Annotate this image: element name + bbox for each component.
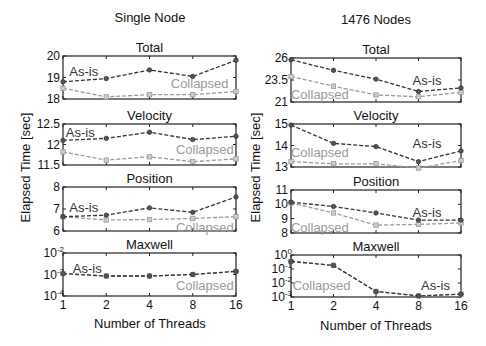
collapsed-marker — [191, 93, 195, 97]
as-is-marker — [104, 136, 108, 140]
y-tick-label: 20 — [47, 49, 61, 63]
as-is-marker — [416, 89, 420, 93]
collapsed-marker — [374, 162, 378, 166]
panel-single-node-position: Position678As-isCollapsed — [53, 171, 238, 238]
series-label-collapsed: Collapsed — [176, 278, 234, 293]
collapsed-marker — [104, 218, 108, 222]
y-tick-label: 21 — [275, 95, 289, 109]
collapsed-marker — [104, 158, 108, 162]
as-is-marker — [234, 58, 238, 62]
x-tick-label: 8 — [189, 298, 196, 312]
panel-1476-nodes-position: Position891011As-isCollapsed — [275, 174, 464, 240]
series-label-as-is: As-is — [73, 261, 102, 276]
as-is-marker — [147, 68, 151, 72]
as-is-marker — [289, 58, 293, 62]
x-tick-label: 2 — [103, 298, 110, 312]
series-label-as-is: As-is — [413, 73, 442, 88]
y-tick-label: 10-2 — [44, 245, 65, 260]
y-tick-label: 12 — [47, 138, 61, 152]
x-tick-label: 2 — [330, 299, 337, 313]
panel-title: Maxwell — [126, 237, 173, 252]
panel-title: Total — [136, 40, 164, 55]
x-tick-label: 16 — [229, 298, 243, 312]
as-is-marker — [374, 211, 378, 215]
y-tick-label: 9 — [281, 212, 288, 226]
collapsed-marker — [234, 215, 238, 219]
as-is-marker — [147, 206, 151, 210]
collapsed-marker — [147, 93, 151, 97]
collapsed-marker — [374, 93, 378, 97]
y-tick-label: 14 — [275, 139, 289, 153]
collapsed-marker — [459, 158, 463, 162]
collapsed-marker — [416, 166, 420, 170]
series-label-collapsed: Collapsed — [291, 87, 349, 102]
y-tick-label: 26 — [275, 51, 289, 65]
collapsed-marker — [191, 160, 195, 164]
series-label-collapsed: Collapsed — [293, 278, 351, 293]
y-tick-label: 11 — [276, 183, 289, 197]
as-is-marker — [416, 294, 420, 298]
as-is-marker — [234, 134, 238, 138]
as-is-marker — [191, 272, 195, 276]
as-is-marker — [104, 274, 108, 278]
y-tick-label: 8 — [53, 180, 60, 194]
collapsed-marker — [147, 155, 151, 159]
panel-1476-nodes-velocity: Velocity131415As-isCollapsed — [275, 108, 464, 174]
collapsed-marker — [147, 217, 151, 221]
as-is-marker — [289, 259, 293, 263]
as-is-marker — [61, 138, 65, 142]
chart-canvas: Total181920As-isCollapsedVelocity11.5121… — [0, 0, 486, 346]
y-tick-label: 19 — [47, 71, 61, 85]
collapsed-marker — [61, 150, 65, 154]
x-tick-label: 16 — [454, 299, 468, 313]
as-is-marker — [61, 215, 65, 219]
x-tick-label: 1 — [60, 298, 67, 312]
as-is-marker — [147, 130, 151, 134]
collapsed-marker — [289, 159, 293, 163]
panel-single-node-maxwell: Maxwell10-410-310-2As-isCollapsed124816 — [44, 237, 243, 312]
panel-1476-nodes-total: Total2123.526As-isCollapsed — [265, 42, 464, 109]
panel-title: Maxwell — [353, 239, 400, 254]
x-tick-label: 4 — [146, 298, 153, 312]
collapsed-marker — [459, 90, 463, 94]
collapsed-marker — [416, 95, 420, 99]
as-is-marker — [374, 144, 378, 148]
series-label-collapsed: Collapsed — [176, 142, 234, 157]
y-tick-label: 6 — [53, 224, 60, 238]
panel-single-node-velocity: Velocity11.51212.5As-isCollapsed — [37, 108, 239, 172]
series-label-collapsed: Collapsed — [291, 220, 349, 235]
collapsed-marker — [289, 74, 293, 78]
y-tick-label: 18 — [47, 92, 61, 106]
panel-title: Velocity — [354, 108, 399, 123]
as-is-marker — [191, 210, 195, 214]
as-is-marker — [104, 213, 108, 217]
collapsed-marker — [331, 211, 335, 215]
series-label-collapsed: Collapsed — [291, 145, 349, 160]
as-is-marker — [331, 263, 335, 267]
panel-1476-nodes-maxwell: Maxwell10-310-210-1100As-isCollapsed1248… — [272, 239, 468, 313]
collapsed-marker — [234, 89, 238, 93]
collapsed-marker — [374, 223, 378, 227]
y-tick-label: 23.5 — [265, 73, 289, 87]
series-label-as-is: As-is — [413, 205, 442, 220]
as-is-marker — [104, 76, 108, 80]
panel-single-node-total: Total181920As-isCollapsed — [47, 40, 239, 106]
y-tick-label: 10 — [275, 197, 289, 211]
series-label-as-is: As-is — [69, 64, 98, 79]
series-label-as-is: As-is — [66, 125, 95, 140]
y-tick-label: 7 — [53, 202, 60, 216]
as-is-marker — [61, 80, 65, 84]
panel-title: Position — [126, 171, 172, 186]
collapsed-marker — [331, 162, 335, 166]
y-tick-label: 10-2 — [272, 275, 293, 290]
y-tick-label: 8 — [281, 226, 288, 240]
y-tick-label: 12.5 — [37, 117, 61, 131]
as-is-marker — [234, 195, 238, 199]
collapsed-marker — [104, 95, 108, 99]
series-label-collapsed: Collapsed — [171, 76, 229, 91]
as-is-marker — [459, 218, 463, 222]
as-is-marker — [147, 274, 151, 278]
x-tick-label: 8 — [415, 299, 422, 313]
as-is-marker — [61, 271, 65, 275]
series-label-as-is: As-is — [421, 278, 450, 293]
